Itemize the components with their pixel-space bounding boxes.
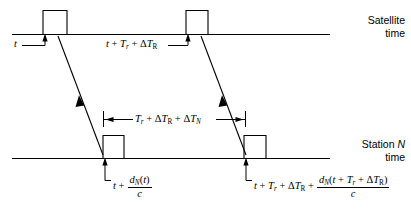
delay-fraction-1-numerator: dN(t) — [128, 174, 152, 188]
satellite-pulse-2 — [186, 11, 208, 35]
sym-c-a: c — [137, 188, 142, 199]
sym-plus-c: + — [146, 113, 152, 124]
sym-sub-R-c: R — [301, 185, 306, 193]
sym-plus-f: + — [260, 180, 266, 191]
symbol-t: t — [14, 38, 17, 49]
sym-sub-R-a: R — [153, 43, 158, 51]
satellite-pulse-1 — [43, 11, 67, 35]
transmit-first-label: t — [14, 38, 17, 49]
sym-plus-h: + — [308, 180, 314, 191]
sym-plus-b: + — [131, 38, 137, 49]
sym-delta-d: Δ — [288, 180, 295, 191]
sym-plus-e: + — [119, 180, 125, 191]
sym-delta-b: Δ — [155, 113, 162, 124]
station-pulse-2 — [244, 136, 266, 159]
station-axis-title-index: N — [397, 138, 405, 150]
delay-fraction-1-denominator: c — [128, 188, 152, 200]
delay-fraction-2: dN(t + Tr + ΔTR) c — [317, 174, 389, 200]
satellite-axis-title-line2: time — [275, 27, 405, 40]
sym-sub-r-d: r — [352, 178, 355, 186]
sym-plus-d: + — [175, 113, 181, 124]
station-axis-title-prefix: Station — [362, 138, 398, 150]
interval-bracket-left-arrowhead — [106, 117, 114, 122]
timing-diagram-figure: Satellite time Station N time t t + Tr +… — [0, 0, 411, 210]
delay-fraction-1: dN(t) c — [128, 174, 152, 200]
sym-sub-r-b: r — [141, 118, 144, 126]
satellite-axis-title-line1: Satellite — [275, 14, 405, 27]
sym-c-b: c — [351, 188, 356, 199]
sym-t-2: t — [106, 38, 109, 49]
station-pulse-1 — [103, 136, 124, 159]
transmit-second-leader — [168, 36, 188, 46]
station-axis-title-line2: time — [275, 151, 405, 164]
sym-plus-a: + — [112, 38, 118, 49]
sym-t-5: t — [254, 180, 257, 191]
receive-first-label: t + dN(t) c — [113, 174, 152, 200]
transmit-second-label: t + Tr + ΔTR — [106, 38, 157, 51]
sym-t-6: t — [333, 174, 336, 185]
delay-fraction-2-numerator: dN(t + Tr + ΔTR) — [317, 174, 389, 188]
sym-paren-close-b: ) — [384, 174, 388, 185]
delay-fraction-2-denominator: c — [317, 188, 389, 200]
sym-sub-N-a: N — [196, 118, 201, 126]
sym-t-3: t — [113, 180, 116, 191]
sym-sub-r-a: r — [126, 43, 129, 51]
station-axis-title: Station N time — [275, 138, 405, 163]
transmit-first-leader — [22, 36, 45, 46]
sym-sub-r-c: r — [274, 185, 277, 193]
sym-plus-i: + — [338, 174, 344, 185]
sym-plus-j: + — [358, 174, 364, 185]
station-axis-title-line1: Station N — [275, 138, 405, 151]
sym-sub-R-b: R — [167, 118, 172, 126]
sym-plus-g: + — [279, 180, 285, 191]
receive-second-label: t + Tr + ΔTR + dN(t + Tr + ΔTR) c — [254, 174, 390, 200]
signal-path-1 — [58, 36, 103, 155]
interval-label: Tr + ΔTR + ΔTN — [135, 113, 201, 126]
sym-paren-close-a: ) — [146, 174, 150, 185]
signal-path-2 — [201, 36, 246, 155]
interval-bracket-right-arrowhead — [236, 117, 244, 122]
satellite-axis-title: Satellite time — [275, 14, 405, 39]
sym-delta-a: Δ — [140, 38, 147, 49]
